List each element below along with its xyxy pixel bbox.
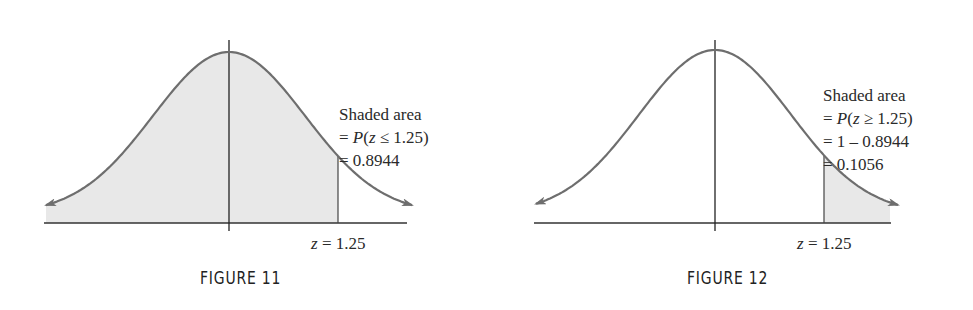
annotation-line-4: = 0.1056: [823, 153, 913, 176]
z-value-label: z = 1.25: [797, 234, 851, 254]
z-value-label: z = 1.25: [311, 234, 365, 254]
shaded-area-annotation: Shaded area = P(z ≥ 1.25) = 1 – 0.8944 =…: [823, 84, 913, 176]
annotation-line-3: = 0.8944: [339, 149, 429, 172]
annotation-line-1: Shaded area: [823, 84, 913, 107]
annotation-line-2: = P(z ≥ 1.25): [823, 107, 913, 130]
shaded-area-left: [46, 52, 338, 223]
annotation-line-3: = 1 – 0.8944: [823, 130, 913, 153]
figure-caption: FIGURE 11: [200, 268, 281, 288]
annotation-line-1: Shaded area: [339, 103, 429, 126]
shaded-area-annotation: Shaded area = P(z ≤ 1.25) = 0.8944: [339, 103, 429, 172]
annotation-line-2: = P(z ≤ 1.25): [339, 126, 429, 149]
figure-caption: FIGURE 12: [687, 268, 768, 288]
